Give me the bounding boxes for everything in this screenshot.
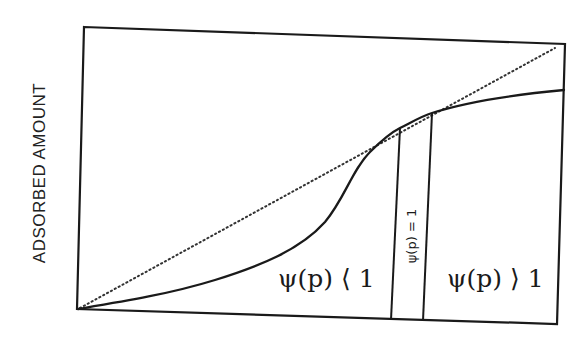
boundary-line-right [423,113,432,321]
region-label-equal-one: ψ(p) = 1 [404,209,419,263]
region-label-greater-than-one: ψ(p) ⟩ 1 [447,266,544,291]
adsorption-diagram [0,0,578,346]
y-axis-label: ADSORBED AMOUNT [30,83,50,263]
region-label-less-than-one: ψ(p) ⟨ 1 [278,266,375,291]
boundary-line-left [391,128,400,320]
